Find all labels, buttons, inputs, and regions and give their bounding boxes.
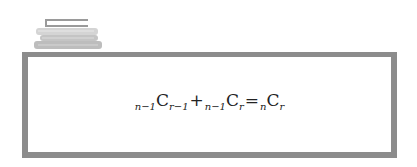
equals-operator: = [245,90,259,110]
term1-prefix: n−1 [135,101,156,112]
book-stack-icon [32,17,106,53]
term2-sub: r [239,101,244,112]
term3-base: C [266,90,279,110]
term1-base: C [156,90,169,110]
formula-frame: n−1Cr−1+n−1Cr=nCr [22,52,397,158]
term1-sub: r−1 [169,101,189,112]
plus-operator: + [190,90,204,110]
term2-base: C [226,90,239,110]
term2-prefix: n−1 [205,101,226,112]
term3-sub: r [279,101,284,112]
combination-formula: n−1Cr−1+n−1Cr=nCr [28,90,391,112]
